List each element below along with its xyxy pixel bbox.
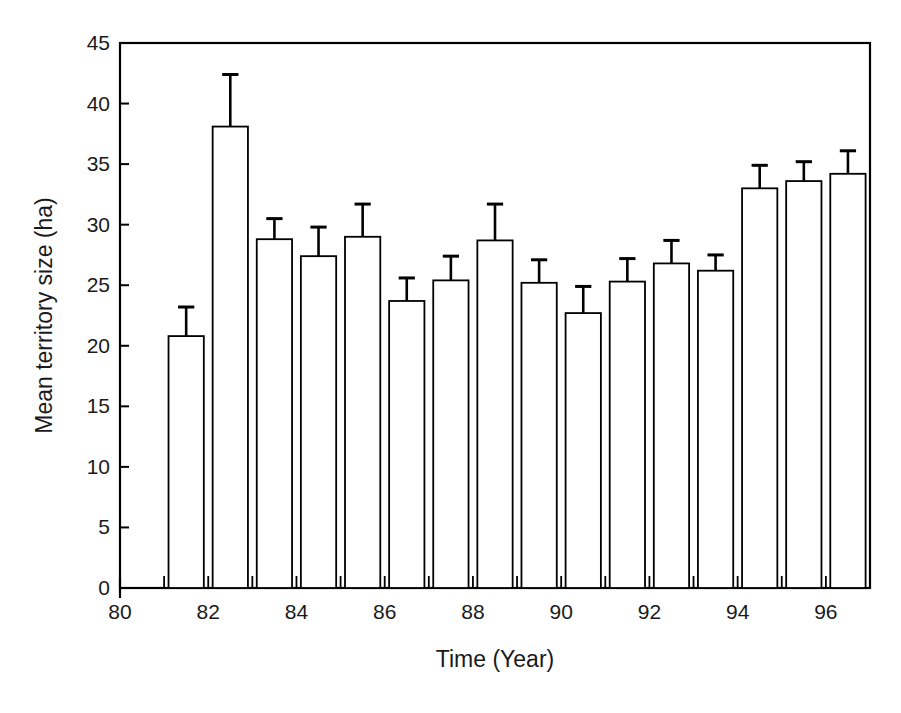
chart-figure: Mean territory size (ha) Time (Year) 051…	[0, 0, 901, 713]
y-tick-label: 40	[87, 92, 110, 116]
bar	[433, 280, 468, 588]
bar	[830, 174, 865, 588]
bar	[257, 239, 292, 588]
y-tick-label: 30	[87, 213, 110, 237]
bar-chart-plot	[0, 0, 901, 713]
y-tick-label: 15	[87, 394, 110, 418]
bar	[566, 313, 601, 588]
x-tick-label: 96	[814, 600, 837, 624]
y-tick-label: 5	[98, 515, 110, 539]
x-tick-label: 88	[461, 600, 484, 624]
x-axis-title: Time (Year)	[120, 646, 870, 673]
y-axis-tick-labels: 051015202530354045	[58, 0, 110, 713]
bar	[654, 263, 689, 588]
x-tick-label: 80	[108, 600, 131, 624]
x-tick-label: 82	[197, 600, 220, 624]
y-tick-label: 45	[87, 31, 110, 55]
y-tick-label: 25	[87, 273, 110, 297]
bar	[169, 336, 204, 588]
bar	[521, 283, 556, 588]
bar	[610, 282, 645, 588]
x-tick-label: 84	[285, 600, 308, 624]
y-tick-label: 35	[87, 152, 110, 176]
x-tick-label: 86	[373, 600, 396, 624]
y-tick-label: 20	[87, 334, 110, 358]
bar	[301, 256, 336, 588]
y-tick-marks	[120, 43, 129, 588]
x-tick-label: 92	[638, 600, 661, 624]
bar	[698, 271, 733, 588]
bar	[389, 301, 424, 588]
x-tick-label: 94	[726, 600, 749, 624]
bar	[213, 127, 248, 588]
y-tick-label: 0	[98, 576, 110, 600]
bar	[742, 188, 777, 588]
bar	[345, 237, 380, 588]
y-tick-label: 10	[87, 455, 110, 479]
bar-series	[169, 127, 866, 588]
bar	[786, 181, 821, 588]
bar	[477, 240, 512, 588]
x-tick-label: 90	[549, 600, 572, 624]
